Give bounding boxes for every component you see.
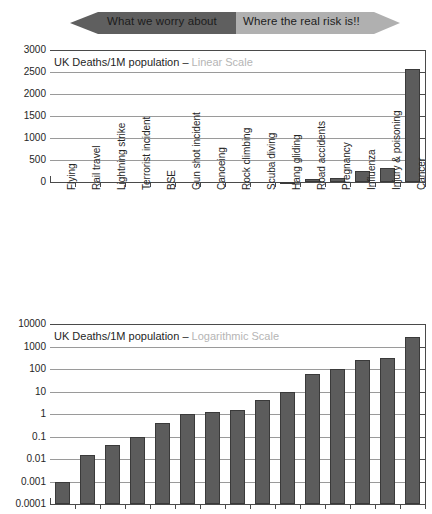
bar bbox=[305, 374, 321, 504]
x-axis-category-label: Canoeing bbox=[217, 147, 227, 190]
y-axis-tick-label: 2000 bbox=[24, 89, 46, 99]
x-axis-category-label: Road accidents bbox=[317, 121, 327, 190]
banner-right-label: Where the real risk is!! bbox=[243, 15, 360, 27]
x-axis-category-label: Injury & poisoning bbox=[392, 111, 402, 191]
y-axis-tick-label: 0.01 bbox=[27, 454, 46, 464]
x-axis-tick-mark bbox=[225, 505, 226, 509]
x-axis-category-label: Influenza bbox=[367, 149, 377, 190]
x-axis-category-label: Cancer bbox=[417, 158, 427, 190]
bar bbox=[230, 410, 246, 504]
gridline bbox=[50, 50, 425, 51]
x-axis-tick-mark bbox=[75, 505, 76, 509]
y-axis-tick-label: 1000 bbox=[24, 342, 46, 352]
bar bbox=[180, 414, 196, 504]
log-plot-area: 1000010001001010.10.010.0010.0001 bbox=[50, 324, 425, 504]
y-axis-tick-label: 1500 bbox=[24, 111, 46, 121]
y-axis-tick-label: 1 bbox=[40, 409, 46, 419]
x-axis-tick-mark bbox=[200, 505, 201, 509]
x-axis-tick-mark bbox=[325, 505, 326, 509]
y-axis-tick-label: 0 bbox=[40, 177, 46, 187]
x-axis-tick-mark bbox=[350, 505, 351, 509]
bar bbox=[280, 392, 296, 505]
bar bbox=[255, 400, 271, 504]
gridline bbox=[50, 347, 425, 348]
gridline bbox=[50, 72, 425, 73]
y-axis-tick-label: 0.1 bbox=[32, 432, 46, 442]
x-axis-tick-mark bbox=[300, 505, 301, 509]
x-axis-category-label: Lightning strike bbox=[117, 123, 127, 190]
x-axis-tick-mark bbox=[375, 505, 376, 509]
x-axis-tick-mark bbox=[150, 505, 151, 509]
left-axis-line bbox=[50, 498, 51, 505]
bar bbox=[380, 358, 396, 504]
bar bbox=[330, 369, 346, 504]
x-axis-tick-mark bbox=[400, 505, 401, 509]
x-axis-category-label: Gun shot incident bbox=[192, 112, 202, 190]
bar bbox=[405, 337, 421, 504]
x-axis-category-label: Terrorist incident bbox=[142, 117, 152, 190]
y-axis-tick-label: 0.0001 bbox=[15, 499, 46, 509]
y-axis-tick-label: 3000 bbox=[24, 45, 46, 55]
x-axis-category-label: Pregnancy bbox=[342, 142, 352, 190]
gridline bbox=[50, 94, 425, 95]
y-axis-tick-label: 10000 bbox=[18, 319, 46, 329]
x-axis-line bbox=[50, 504, 425, 505]
y-axis-tick-label: 500 bbox=[29, 155, 46, 165]
x-axis-tick-mark bbox=[100, 505, 101, 509]
y-axis-tick-label: 1000 bbox=[24, 133, 46, 143]
risk-comparison-banner: What we worry about Where the real risk … bbox=[0, 0, 432, 44]
y-axis-tick-label: 2500 bbox=[24, 67, 46, 77]
x-axis-category-label: Rock climbing bbox=[242, 128, 252, 190]
x-axis-category-label: Scuba diving bbox=[267, 133, 277, 190]
linear-scale-chart: UK Deaths/1M population – Linear Scale 3… bbox=[0, 44, 432, 294]
bar bbox=[205, 412, 221, 504]
x-axis-tick-mark bbox=[275, 505, 276, 509]
linear-plot-area: 300025002000150010005000FlyingRail trave… bbox=[50, 50, 425, 182]
banner-left-label: What we worry about bbox=[107, 15, 217, 27]
x-axis-category-label: Flying bbox=[67, 163, 77, 190]
bar bbox=[105, 445, 121, 504]
gridline bbox=[50, 324, 425, 325]
x-axis-category-label: BSE bbox=[167, 170, 177, 190]
bar bbox=[155, 423, 171, 504]
gridline bbox=[50, 116, 425, 117]
y-axis-tick-label: 10 bbox=[35, 387, 46, 397]
bar bbox=[80, 455, 96, 504]
x-axis-tick-mark bbox=[425, 505, 426, 509]
bar bbox=[130, 437, 146, 505]
y-axis-tick-label: 100 bbox=[29, 364, 46, 374]
left-axis-line bbox=[50, 176, 51, 183]
bar bbox=[355, 360, 371, 504]
bar bbox=[55, 482, 71, 505]
x-axis-tick-mark bbox=[250, 505, 251, 509]
x-axis-category-label: Hang gliding bbox=[292, 134, 302, 190]
y-axis-tick-label: 0.001 bbox=[21, 477, 46, 487]
right-axis-line bbox=[425, 324, 426, 505]
x-axis-category-label: Rail travel bbox=[92, 146, 102, 190]
logarithmic-scale-chart: UK Deaths/1M population – Logarithmic Sc… bbox=[0, 318, 432, 514]
gridline bbox=[50, 138, 425, 139]
x-axis-tick-mark bbox=[175, 505, 176, 509]
x-axis-tick-mark bbox=[125, 505, 126, 509]
